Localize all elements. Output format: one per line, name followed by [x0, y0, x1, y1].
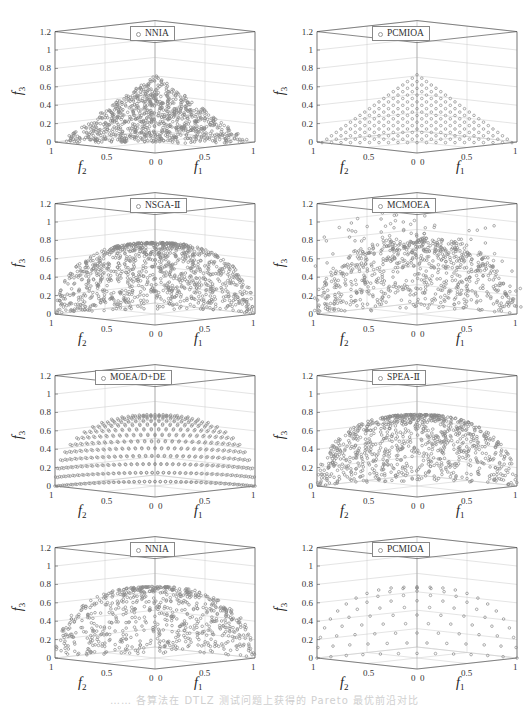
z-tick-label: 1 — [33, 561, 51, 571]
axis-label-f3-sub: 3 — [279, 87, 289, 92]
z-tick-label: 1 — [295, 389, 313, 399]
axis-label-f3: f3 — [273, 603, 291, 611]
f1-tick-label: 0 — [158, 673, 163, 683]
legend-label: PCMIOA — [387, 544, 424, 554]
f1-tick-label: 0 — [420, 329, 425, 339]
z-tick-label: 0.6 — [295, 598, 313, 608]
axis-label-f3-main: f — [272, 435, 287, 439]
axis-label-f3-main: f — [272, 607, 287, 611]
z-tick-label: 0.4 — [33, 444, 51, 454]
f1-tick-label: 1 — [251, 490, 256, 500]
f2-tick-label: 1 — [311, 662, 316, 672]
f2-tick-label: 0 — [411, 501, 416, 511]
f2-tick-label: 0.5 — [101, 152, 112, 162]
z-tick-label: 0.6 — [295, 426, 313, 436]
z-tick-label: 0.2 — [295, 463, 313, 473]
z-tick-label: 0.2 — [295, 119, 313, 129]
z-tick-label: 1 — [295, 561, 313, 571]
f1-tick-label: 1 — [513, 318, 518, 328]
panel-pcmioa-dtlz1: PCMIOA00.20.40.60.811.210.5000.51f2f1f3 — [262, 0, 526, 172]
axis-label-f3: f3 — [273, 259, 291, 267]
f2-tick-label: 0 — [411, 673, 416, 683]
legend-label: NNIA — [145, 28, 169, 38]
f1-tick-label: 0 — [158, 157, 163, 167]
axis-label-f3-sub: 3 — [17, 259, 27, 264]
legend-label: MOEA/D+DE — [110, 372, 166, 382]
axis-label-f3-main: f — [10, 435, 25, 439]
f2-tick-label: 0 — [149, 157, 154, 167]
panel-spea2-dtlz2: SPEA-Ⅱ00.20.40.60.811.210.5000.51f2f1f3 — [262, 344, 526, 516]
legend-1: NNIA — [130, 26, 175, 41]
z-tick-label: 1 — [295, 45, 313, 55]
legend-4: MCMOEA — [372, 198, 436, 213]
z-tick-label: 0.8 — [33, 235, 51, 245]
axis-label-f3-sub: 3 — [17, 431, 27, 436]
z-tick-label: 0.4 — [295, 272, 313, 282]
z-tick-label: 0.6 — [33, 426, 51, 436]
panel-nsga2-dtlz2: NSGA-Ⅱ00.20.40.60.811.210.5000.51f2f1f3 — [0, 172, 264, 344]
axis-label-f3: f3 — [11, 87, 29, 95]
panel-moead-de-dtlz2: MOEA/D+DE00.20.40.60.811.210.5000.51f2f1… — [0, 344, 264, 516]
z-tick-label: 0.2 — [33, 635, 51, 645]
z-tick-label: 0.4 — [295, 616, 313, 626]
z-tick-label: 1.2 — [295, 371, 313, 381]
f1-tick-label: 0 — [420, 157, 425, 167]
legend-3: NSGA-Ⅱ — [130, 198, 187, 213]
axis-label-f3: f3 — [273, 431, 291, 439]
f2-tick-label: 1 — [49, 146, 54, 156]
f2-tick-label: 1 — [49, 490, 54, 500]
z-tick-label: 0.8 — [33, 579, 51, 589]
f2-tick-label: 0.5 — [363, 496, 374, 506]
z-tick-label: 0.8 — [295, 235, 313, 245]
f2-tick-label: 1 — [311, 318, 316, 328]
f2-tick-label: 0 — [149, 673, 154, 683]
f1-tick-label: 1 — [251, 662, 256, 672]
z-tick-label: 0.4 — [33, 100, 51, 110]
legend-marker-icon — [378, 548, 383, 553]
panel-pcmioa-dtlz2: PCMIOA00.20.40.60.811.210.5000.51f2f1f3 — [262, 516, 526, 688]
panel-nnia-dtlz1: NNIA00.20.40.60.811.210.5000.51f2f1f3 — [0, 0, 264, 172]
f2-tick-label: 1 — [311, 490, 316, 500]
z-tick-label: 1.2 — [295, 27, 313, 37]
z-tick-label: 0.2 — [33, 463, 51, 473]
z-tick-label: 0.6 — [33, 254, 51, 264]
f1-tick-label: 1 — [513, 662, 518, 672]
axis-label-f3-sub: 3 — [279, 431, 289, 436]
panel-nnia-dtlz2: NNIA00.20.40.60.811.210.5000.51f2f1f3 — [0, 516, 264, 688]
f2-tick-label: 0.5 — [101, 496, 112, 506]
z-tick-label: 1.2 — [33, 371, 51, 381]
f2-tick-label: 0 — [149, 329, 154, 339]
legend-marker-icon — [101, 376, 106, 381]
z-tick-label: 0.6 — [295, 82, 313, 92]
z-tick-label: 1.2 — [33, 543, 51, 553]
z-tick-label: 0.2 — [33, 119, 51, 129]
axis-label-f3-main: f — [272, 263, 287, 267]
z-tick-label: 0.2 — [295, 635, 313, 645]
z-tick-label: 0.8 — [33, 407, 51, 417]
axis-label-f3-main: f — [10, 91, 25, 95]
z-tick-label: 1 — [33, 389, 51, 399]
z-tick-label: 1.2 — [33, 199, 51, 209]
f1-tick-label: 1 — [251, 146, 256, 156]
figure-grid: NNIA00.20.40.60.811.210.5000.51f2f1f3 PC… — [0, 0, 529, 690]
f1-tick-label: 0 — [158, 501, 163, 511]
z-tick-label: 1 — [295, 217, 313, 227]
axis-label-f2-sub: 2 — [344, 682, 349, 692]
z-tick-label: 1.2 — [295, 199, 313, 209]
legend-7: NNIA — [130, 542, 175, 557]
f1-tick-label: 0 — [158, 329, 163, 339]
z-tick-label: 0.4 — [295, 444, 313, 454]
f2-tick-label: 1 — [49, 318, 54, 328]
f1-tick-label: 1 — [513, 146, 518, 156]
legend-marker-icon — [378, 376, 383, 381]
legend-2: PCMIOA — [372, 26, 430, 41]
z-tick-label: 0.6 — [33, 598, 51, 608]
z-tick-label: 0.8 — [33, 63, 51, 73]
legend-marker-icon — [378, 204, 383, 209]
legend-label: PCMIOA — [387, 28, 424, 38]
f2-tick-label: 0.5 — [101, 324, 112, 334]
f2-tick-label: 0.5 — [101, 668, 112, 678]
f2-tick-label: 1 — [49, 662, 54, 672]
z-tick-label: 0.4 — [33, 272, 51, 282]
legend-marker-icon — [136, 32, 141, 37]
